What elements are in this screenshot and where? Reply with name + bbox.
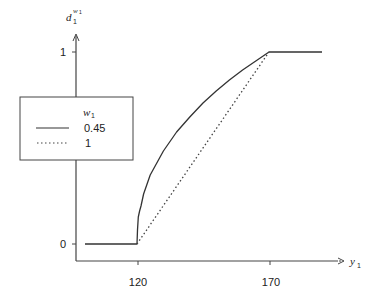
legend: w 1 0.45 1 xyxy=(20,97,133,160)
svg-text:1: 1 xyxy=(79,9,82,15)
series-dotted-1 xyxy=(137,52,269,244)
y-tick-label-0: 0 xyxy=(60,238,66,250)
x-tick-label-170: 170 xyxy=(262,276,280,288)
x-tick-label-120: 120 xyxy=(129,276,147,288)
svg-text:1: 1 xyxy=(357,262,361,269)
svg-text:1: 1 xyxy=(73,18,77,25)
y-axis-label: d 1 w 1 xyxy=(66,7,82,25)
svg-text:d: d xyxy=(66,11,72,23)
y-tick-label-1: 1 xyxy=(60,46,66,58)
desirability-chart: 1 0 d 1 w 1 120 170 y 1 xyxy=(0,0,379,306)
x-axis: 120 170 y 1 xyxy=(76,255,361,288)
svg-text:y: y xyxy=(349,255,355,267)
svg-text:1: 1 xyxy=(91,112,95,119)
svg-text:w: w xyxy=(73,7,78,15)
x-axis-label: y 1 xyxy=(349,255,361,269)
svg-text:w: w xyxy=(83,106,91,118)
legend-item-label: 1 xyxy=(85,137,91,149)
legend-item-label: 0.45 xyxy=(84,122,105,134)
